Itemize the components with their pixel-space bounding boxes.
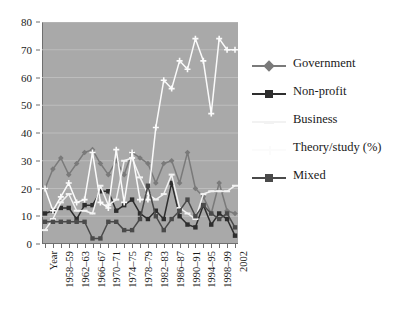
y-axis: 01020304050607080 bbox=[0, 22, 40, 244]
data-point bbox=[98, 236, 102, 240]
legend-item-business[interactable]: Business bbox=[252, 112, 396, 129]
x-tick-mark bbox=[195, 244, 196, 248]
data-point bbox=[137, 197, 143, 203]
x-tick-label: 1962–63 bbox=[81, 251, 92, 288]
y-tick-mark bbox=[36, 105, 40, 106]
data-point bbox=[209, 222, 213, 226]
data-point bbox=[74, 199, 80, 205]
x-tick-label: 1994–95 bbox=[207, 251, 218, 288]
y-tick-mark bbox=[36, 49, 40, 50]
x-tick-mark bbox=[219, 244, 220, 248]
x-tick-mark bbox=[227, 244, 228, 248]
data-point bbox=[43, 211, 47, 215]
data-point bbox=[208, 190, 214, 192]
legend-label: Mixed bbox=[293, 168, 326, 183]
y-tick-mark bbox=[36, 77, 40, 78]
data-point bbox=[51, 220, 55, 224]
y-tick-mark bbox=[36, 133, 40, 134]
data-point bbox=[217, 211, 221, 215]
data-point bbox=[232, 47, 238, 53]
data-point bbox=[66, 193, 72, 195]
data-point bbox=[122, 228, 126, 232]
x-tick-mark bbox=[148, 244, 149, 248]
data-point bbox=[161, 161, 167, 167]
data-point bbox=[201, 203, 205, 207]
legend-item-non-profit[interactable]: Non-profit bbox=[252, 84, 396, 101]
y-tick-mark bbox=[36, 160, 40, 161]
x-tick-mark bbox=[172, 244, 173, 248]
legend-item-mixed[interactable]: Mixed bbox=[252, 168, 396, 185]
data-point bbox=[42, 229, 48, 231]
x-tick-label: 2002 bbox=[239, 251, 250, 272]
legend-swatch-icon bbox=[252, 87, 286, 101]
legend-label: Non-profit bbox=[293, 84, 346, 99]
legend-label: Theory/study (%) bbox=[293, 140, 382, 155]
data-point bbox=[82, 197, 88, 203]
x-tick-mark bbox=[164, 244, 165, 248]
data-point bbox=[153, 124, 159, 130]
chart-legend: GovernmentNon-profitBusinessTheory/study… bbox=[252, 56, 396, 196]
data-point bbox=[113, 199, 119, 201]
data-point bbox=[216, 190, 222, 192]
x-tick-label: Year bbox=[49, 251, 60, 270]
data-point bbox=[43, 220, 47, 224]
data-point bbox=[233, 233, 237, 237]
data-point bbox=[177, 180, 183, 186]
data-point bbox=[154, 214, 158, 218]
x-tick-mark bbox=[203, 244, 204, 248]
data-point bbox=[161, 193, 167, 195]
x-tick-label: 1974–75 bbox=[128, 251, 139, 288]
data-point bbox=[208, 111, 214, 117]
data-point bbox=[200, 193, 206, 195]
data-point bbox=[90, 236, 94, 240]
data-point bbox=[185, 212, 191, 214]
data-point bbox=[153, 180, 159, 186]
data-point bbox=[169, 174, 175, 176]
x-tick-mark bbox=[188, 244, 189, 248]
legend-item-government[interactable]: Government bbox=[252, 56, 396, 73]
data-point bbox=[138, 217, 142, 221]
data-point bbox=[177, 214, 181, 218]
x-tick-mark bbox=[180, 244, 181, 248]
x-tick-mark bbox=[85, 244, 86, 248]
x-axis: Year1958–591962–631966–671970–711974–751… bbox=[42, 244, 238, 324]
x-tick-mark bbox=[116, 244, 117, 248]
data-point bbox=[90, 212, 96, 214]
y-tick-label: 30 bbox=[21, 155, 32, 166]
x-tick-mark bbox=[140, 244, 141, 248]
x-tick-mark bbox=[156, 244, 157, 248]
data-point bbox=[146, 217, 150, 221]
y-tick-mark bbox=[36, 244, 40, 245]
series-canvas bbox=[42, 22, 238, 244]
data-point bbox=[224, 190, 230, 192]
data-point bbox=[216, 180, 222, 186]
data-point bbox=[192, 36, 198, 42]
x-tick-mark bbox=[235, 244, 236, 248]
x-tick-label: 1978–79 bbox=[144, 251, 155, 288]
y-tick-mark bbox=[36, 188, 40, 189]
legend-swatch-icon bbox=[252, 115, 286, 129]
x-tick-label: 1982–83 bbox=[160, 251, 171, 288]
data-point bbox=[232, 185, 238, 187]
data-point bbox=[137, 176, 143, 178]
x-tick-mark bbox=[108, 244, 109, 248]
data-point bbox=[162, 228, 166, 232]
data-point bbox=[193, 214, 197, 218]
legend-label: Business bbox=[293, 112, 337, 127]
legend-item-theory-study[interactable]: Theory/study (%) bbox=[252, 140, 396, 157]
data-point bbox=[185, 197, 189, 201]
x-tick-mark bbox=[124, 244, 125, 248]
data-point bbox=[130, 197, 134, 201]
data-point bbox=[74, 220, 78, 224]
data-point bbox=[153, 199, 159, 201]
data-point bbox=[200, 58, 206, 64]
x-tick-mark bbox=[53, 244, 54, 248]
data-point bbox=[232, 211, 238, 217]
legend-label: Government bbox=[293, 56, 355, 71]
data-point bbox=[129, 157, 135, 159]
plot-area bbox=[42, 22, 238, 244]
data-point bbox=[209, 211, 213, 215]
data-point bbox=[58, 194, 64, 200]
data-point bbox=[233, 225, 237, 229]
x-tick-mark bbox=[61, 244, 62, 248]
